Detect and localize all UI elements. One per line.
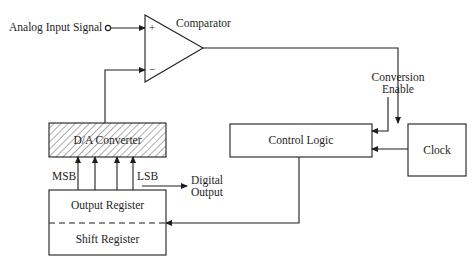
analog-input-terminal-icon [105, 25, 110, 30]
digital-output-label-line2: Output [191, 186, 223, 199]
lsb-label: LSB [137, 170, 158, 183]
analog-input-label: Analog Input Signal [9, 21, 102, 34]
dac-feedback-wire [105, 70, 145, 123]
output-register-label: Output Register [49, 199, 166, 212]
clock-label: Clock [408, 144, 466, 157]
shift-register-label: Shift Register [49, 233, 166, 246]
comparator-label: Comparator [176, 17, 231, 30]
digital-output-label-line1: Digital [191, 174, 223, 187]
control-logic-label: Control Logic [230, 134, 372, 147]
comparator-plus-sign: + [149, 21, 155, 33]
conversion-enable-label-line1: Conversion [358, 71, 438, 84]
msb-label: MSB [52, 170, 76, 183]
conversion-enable-wire [372, 97, 388, 131]
conversion-enable-label-line2: Enable [358, 83, 438, 96]
comparator-minus-sign: − [149, 63, 155, 75]
control-to-register-wire [166, 157, 299, 223]
dac-label: D/A Converter [49, 134, 166, 147]
